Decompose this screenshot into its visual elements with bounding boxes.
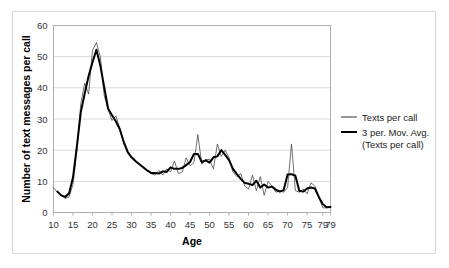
series-line-texts-per-call xyxy=(54,43,331,208)
chart-legend: Texts per call3 per. Mov. Avg.(Texts per… xyxy=(341,112,429,150)
chart-canvas: 0102030405060 10152025303540455055606570… xyxy=(0,0,449,268)
y-axis-title: Number of text messages per call xyxy=(20,35,32,203)
y-tick-label-50: 50 xyxy=(37,51,48,62)
chart-container: 0102030405060 10152025303540455055606570… xyxy=(0,0,449,268)
x-axis-tick-labels: 10152025303540455055606570757979 xyxy=(48,219,336,230)
x-tick-label-5: 35 xyxy=(146,219,157,230)
data-series-layer xyxy=(54,43,331,208)
x-tick-label-8: 50 xyxy=(204,219,215,230)
y-tick-label-60: 60 xyxy=(37,20,48,31)
x-tick-label-12: 70 xyxy=(282,219,293,230)
x-tick-label-0: 10 xyxy=(48,219,59,230)
legend-label-moving-average-line2: (Texts per call) xyxy=(362,139,424,150)
x-tick-label-2: 20 xyxy=(87,219,98,230)
x-tick-label-3: 25 xyxy=(107,219,118,230)
x-tick-label-6: 40 xyxy=(165,219,176,230)
x-tick-label-1: 15 xyxy=(68,219,79,230)
legend-label-moving-average: 3 per. Mov. Avg. xyxy=(362,127,429,138)
x-tick-label-10: 60 xyxy=(243,219,254,230)
x-tick-label-15: 79 xyxy=(325,219,336,230)
y-tick-label-30: 30 xyxy=(37,114,48,125)
y-tick-label-10: 10 xyxy=(37,176,48,187)
y-tick-label-40: 40 xyxy=(37,82,48,93)
x-tick-label-4: 30 xyxy=(126,219,137,230)
x-tick-label-13: 75 xyxy=(302,219,313,230)
x-tick-label-7: 45 xyxy=(185,219,196,230)
y-axis-tick-labels: 0102030405060 xyxy=(37,20,48,218)
x-tick-label-11: 65 xyxy=(263,219,274,230)
x-tick-label-9: 55 xyxy=(224,219,235,230)
x-axis-title: Age xyxy=(182,235,202,247)
series-line-moving-average xyxy=(57,50,330,207)
y-tick-label-20: 20 xyxy=(37,145,48,156)
y-tick-label-0: 0 xyxy=(42,207,47,218)
legend-label-texts-per-call: Texts per call xyxy=(362,112,417,123)
